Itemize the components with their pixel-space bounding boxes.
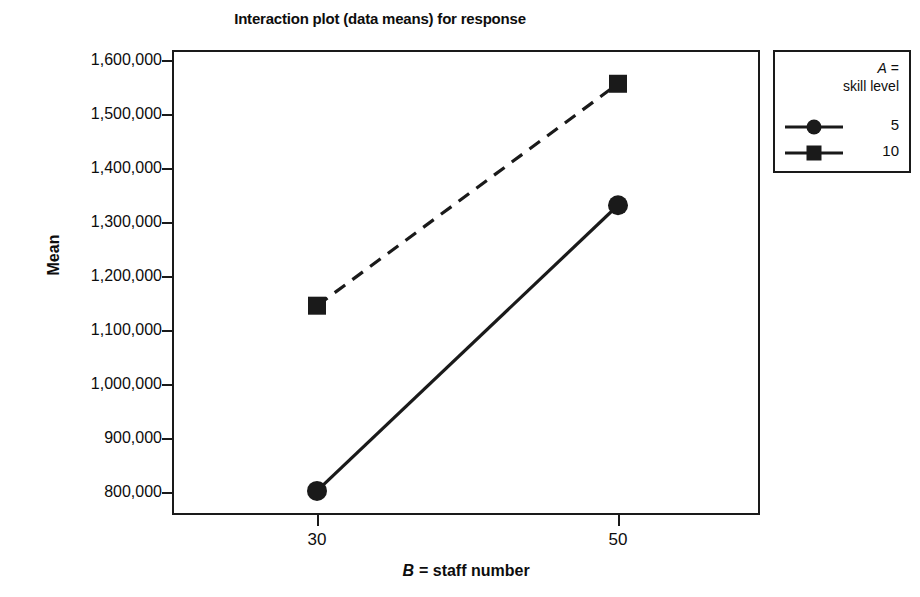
plot-area xyxy=(172,50,760,515)
y-tick-label: 900,000 xyxy=(50,429,162,447)
legend-label: 5 xyxy=(891,116,899,133)
legend-symbol-square-dashed xyxy=(783,140,845,166)
x-axis-title-variable: B xyxy=(402,562,414,579)
y-axis-tick-labels: 1,600,000 1,500,000 1,400,000 1,300,000 … xyxy=(32,0,162,597)
legend-title-equals: = xyxy=(887,60,899,76)
legend-title-variable: A xyxy=(878,60,887,76)
x-axis-title: B= staff number xyxy=(172,562,760,580)
interaction-plot: Interaction plot (data means) for respon… xyxy=(0,0,920,597)
y-tick-label: 1,000,000 xyxy=(50,375,162,393)
y-tick-label: 1,100,000 xyxy=(50,321,162,339)
x-tick-mark xyxy=(618,515,620,526)
y-tick-label: 1,600,000 xyxy=(50,51,162,69)
legend-symbol-circle-solid xyxy=(783,114,845,140)
legend-entry-series-1[interactable]: 5 xyxy=(775,114,909,140)
y-tick-label: 1,400,000 xyxy=(50,159,162,177)
legend-entries: 5 10 xyxy=(775,114,909,166)
y-tick-label: 800,000 xyxy=(50,483,162,501)
x-tick-label: 30 xyxy=(287,530,347,550)
legend-label: 10 xyxy=(882,142,899,159)
legend-title-line1: A = xyxy=(843,60,899,78)
x-tick-mark xyxy=(317,515,319,526)
x-tick-label: 50 xyxy=(588,530,648,550)
y-tick-label: 1,500,000 xyxy=(50,105,162,123)
legend-entry-series-2[interactable]: 10 xyxy=(775,140,909,166)
y-tick-label: 1,200,000 xyxy=(50,267,162,285)
legend: A = skill level 5 xyxy=(773,50,911,173)
x-axis-title-text: = staff number xyxy=(419,562,530,579)
legend-title: A = skill level xyxy=(843,60,899,95)
y-tick-label: 1,300,000 xyxy=(50,213,162,231)
legend-title-line2: skill level xyxy=(843,78,899,96)
